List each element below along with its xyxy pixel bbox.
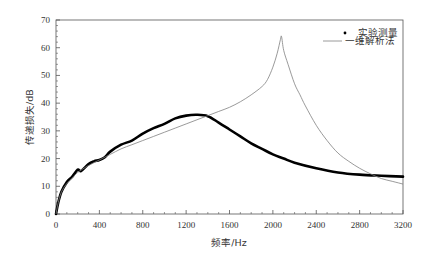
y-tick-label: 50 xyxy=(41,70,51,80)
legend-dot-marker-icon xyxy=(344,32,347,35)
y-tick-label: 10 xyxy=(41,181,51,191)
y-tick-label: 70 xyxy=(41,15,51,25)
x-tick-label: 1200 xyxy=(177,220,196,230)
x-axis-label: 频率/Hz xyxy=(211,237,246,248)
x-tick-label: 1600 xyxy=(221,220,240,230)
y-tick-label: 60 xyxy=(41,43,51,53)
x-tick-label: 2400 xyxy=(307,220,326,230)
y-tick-label: 0 xyxy=(46,209,51,219)
y-tick-label: 20 xyxy=(41,154,51,164)
x-tick-label: 800 xyxy=(136,220,150,230)
series-layer xyxy=(56,36,403,214)
plot-border xyxy=(56,20,403,214)
legend: 实验测量 一维解析法 xyxy=(323,27,398,46)
legend-label-analytical: 一维解析法 xyxy=(345,35,395,46)
x-tick-label: 2000 xyxy=(264,220,283,230)
y-axis-ticks: 010203040506070 xyxy=(41,15,60,219)
y-tick-label: 30 xyxy=(41,126,51,136)
transmission-loss-chart: 010203040506070 040080012001600200024002… xyxy=(0,0,435,267)
series-measured xyxy=(56,115,403,214)
plot-frame xyxy=(56,20,403,214)
series-analytical xyxy=(56,36,403,214)
y-axis-label: 传递损失/dB xyxy=(24,89,35,145)
x-tick-label: 2800 xyxy=(351,220,370,230)
x-axis-ticks: 0400800120016002000240028003200 xyxy=(54,210,413,230)
y-tick-label: 40 xyxy=(41,98,51,108)
x-tick-label: 0 xyxy=(54,220,59,230)
x-tick-label: 3200 xyxy=(394,220,413,230)
x-tick-label: 400 xyxy=(93,220,107,230)
